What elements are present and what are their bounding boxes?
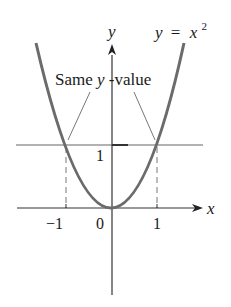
pointer-right [134,92,155,140]
function-exp: 2 [201,20,207,32]
function-label: y = x 2 [153,20,207,42]
parabola-curve [36,43,184,208]
annotation-suffix: -value [109,70,151,89]
x-tick-label-neg1: −1 [46,215,63,232]
function-eq: = [171,23,181,42]
x-tick-label-0: 0 [96,215,104,232]
parabola-diagram: y y = x 2 Same y -value 1 x −1 0 1 [0,0,231,307]
x-tick-label-1: 1 [153,215,161,232]
same-y-value-annotation: Same y -value [55,70,151,89]
function-lhs: y [153,23,163,42]
function-rhs: x [189,23,198,42]
y-axis-label: y [106,22,116,41]
pointer-left [68,92,90,140]
y-tick-label-1: 1 [96,147,104,164]
y-axis-arrow-icon [108,44,116,55]
annotation-prefix: Same [55,70,97,89]
x-axis-label: x [206,199,215,218]
annotation-var: y [95,70,105,89]
